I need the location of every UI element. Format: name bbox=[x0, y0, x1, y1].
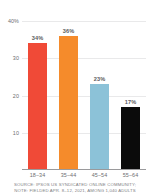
chart-footer: SOURCE: IPSOS US SYNDICATED ONLINE COMMU… bbox=[0, 182, 150, 193]
bar-series: 34% 36% 23% 17% bbox=[22, 21, 146, 170]
bar-45-54 bbox=[90, 84, 109, 170]
bar-chart: 40% 30 20 10 34% 36% 23% 1 bbox=[0, 0, 150, 196]
x-axis-label-35-44: 35–44 bbox=[53, 172, 84, 178]
y-axis-tick-40: 40% bbox=[8, 18, 19, 24]
bar-slot-18-34: 34% bbox=[22, 21, 53, 170]
plot-area: 34% 36% 23% 17% bbox=[22, 21, 146, 170]
bar-value-35-44: 36% bbox=[63, 28, 75, 34]
bar-55-64 bbox=[121, 107, 140, 170]
bar-value-18-34: 34% bbox=[32, 35, 44, 41]
bar-slot-55-64: 17% bbox=[115, 21, 146, 170]
y-axis-tick-30: 30 bbox=[13, 55, 19, 61]
bar-slot-45-54: 23% bbox=[84, 21, 115, 170]
x-axis-baseline bbox=[22, 169, 146, 170]
bar-18-34 bbox=[28, 43, 47, 170]
x-axis-labels: 18–34 35–44 45–54 55–64 bbox=[22, 172, 146, 178]
x-axis-label-18-34: 18–34 bbox=[22, 172, 53, 178]
y-axis-labels: 40% 30 20 10 bbox=[0, 21, 20, 170]
y-axis-tick-20: 20 bbox=[13, 93, 19, 99]
x-axis-label-55-64: 55–64 bbox=[115, 172, 146, 178]
footer-note: NOTE: FIELDED APR. 8–12, 2021, AMONG 1,0… bbox=[0, 188, 150, 194]
bar-value-45-54: 23% bbox=[94, 76, 106, 82]
bar-35-44 bbox=[59, 36, 78, 170]
x-axis-label-45-54: 45–54 bbox=[84, 172, 115, 178]
y-axis-tick-10: 10 bbox=[13, 130, 19, 136]
footer-source: SOURCE: IPSOS US SYNDICATED ONLINE COMMU… bbox=[0, 182, 150, 188]
bar-value-55-64: 17% bbox=[125, 99, 137, 105]
bar-slot-35-44: 36% bbox=[53, 21, 84, 170]
